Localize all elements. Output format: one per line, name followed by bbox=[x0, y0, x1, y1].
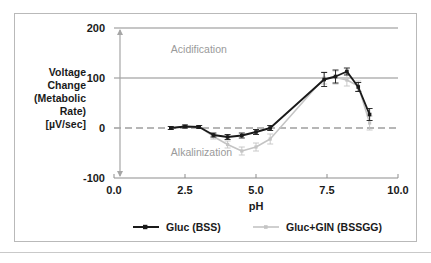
data-point-marker bbox=[254, 145, 257, 148]
y-axis-label-line-1: Change bbox=[47, 79, 86, 91]
legend-marker-1 bbox=[264, 225, 268, 229]
data-point-marker bbox=[240, 149, 243, 152]
data-point-marker bbox=[183, 125, 187, 129]
y-tick-label--100: -100 bbox=[83, 172, 105, 184]
y-tick-label-0: 0 bbox=[99, 122, 105, 134]
chart-canvas: 0.02.55.07.510.0pH-1000100200VoltageChan… bbox=[0, 0, 431, 263]
y-tick-label-200: 200 bbox=[87, 22, 105, 34]
data-point-marker bbox=[226, 143, 229, 146]
y-axis-label-line-4: [µV/sec] bbox=[46, 118, 86, 130]
annotation-alkalinization: Alkalinization bbox=[171, 146, 232, 158]
figure-root: 0.02.55.07.510.0pH-1000100200VoltageChan… bbox=[0, 0, 431, 263]
annotation-acidification: Acidification bbox=[171, 43, 227, 55]
x-tick-label-2.5: 2.5 bbox=[177, 184, 192, 196]
arrow-head-up-icon bbox=[117, 29, 123, 35]
y-tick-label-100: 100 bbox=[87, 72, 105, 84]
x-tick-label-5.0: 5.0 bbox=[248, 184, 263, 196]
x-tick-label-7.5: 7.5 bbox=[319, 184, 334, 196]
legend-label-1: Gluc+GIN (BSSGG) bbox=[286, 221, 382, 233]
data-point-marker bbox=[345, 78, 348, 81]
legend-label-0: Gluc (BSS) bbox=[166, 221, 221, 233]
data-point-marker bbox=[169, 126, 173, 130]
x-axis-title: pH bbox=[249, 200, 264, 212]
data-point-marker bbox=[240, 134, 244, 138]
data-point-marker bbox=[197, 125, 201, 129]
data-point-marker bbox=[226, 135, 230, 139]
data-point-marker bbox=[368, 121, 371, 124]
data-point-marker bbox=[368, 113, 372, 117]
data-point-marker bbox=[322, 78, 326, 82]
y-axis-label-line-0: Voltage bbox=[49, 66, 86, 78]
arrow-head-down-icon bbox=[117, 171, 123, 177]
x-tick-label-10.0: 10.0 bbox=[387, 184, 408, 196]
y-axis-label-line-3: Rate) bbox=[60, 105, 86, 117]
data-point-marker bbox=[356, 85, 360, 89]
data-point-marker bbox=[334, 75, 338, 79]
x-tick-label-0.0: 0.0 bbox=[106, 184, 121, 196]
series-gluc-gin-bssgg bbox=[168, 71, 373, 155]
data-point-marker bbox=[212, 133, 216, 137]
data-point-marker bbox=[269, 137, 272, 140]
data-point-marker bbox=[254, 130, 258, 134]
data-point-marker bbox=[268, 126, 272, 130]
legend-marker-0 bbox=[143, 225, 147, 229]
y-axis-label-line-2: (Metabolic bbox=[34, 92, 86, 104]
data-point-marker bbox=[345, 70, 349, 74]
